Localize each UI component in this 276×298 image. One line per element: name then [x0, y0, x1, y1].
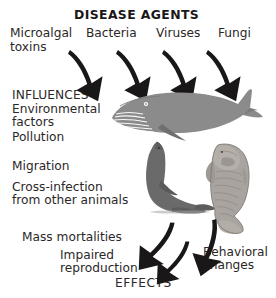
disease-agents-diagram: DISEASE AGENTS Microalgal toxins Bacteri…: [0, 0, 276, 298]
agent-label-viruses: Viruses: [156, 27, 200, 39]
arrow-disease-agent-4: [206, 50, 241, 101]
diagram-footer-effects: EFFECTS: [115, 277, 172, 289]
effect-impaired-reproduction-line2: reproduction: [60, 262, 138, 274]
effect-impaired-reproduction-line1: Impaired: [60, 249, 114, 261]
influence-pollution: Pollution: [12, 131, 64, 143]
arrow-disease-agent-3: [162, 50, 197, 101]
effect-mass-mortalities: Mass mortalities: [22, 231, 122, 243]
effect-behavioral-changes-line2: changes: [203, 259, 254, 271]
influence-migration: Migration: [12, 160, 69, 172]
agent-label-fungi: Fungi: [218, 27, 251, 39]
influence-environmental-factors-line2: factors: [12, 116, 54, 128]
agent-label-microalgal: Microalgal: [10, 27, 72, 39]
influence-cross-infection-line1: Cross-infection: [12, 181, 103, 193]
arrow-disease-agent-2: [116, 50, 151, 101]
whale-illustration: [112, 89, 263, 141]
influences-heading: INFLUENCES: [12, 89, 89, 101]
manatee-illustration: [206, 144, 249, 234]
agent-label-microalgal-line2: toxins: [10, 41, 47, 53]
effect-behavioral-changes-line1: Behavioral: [203, 246, 268, 258]
influence-environmental-factors-line1: Environmental: [12, 103, 101, 115]
agent-label-bacteria: Bacteria: [86, 27, 137, 39]
sea-lion-illustration: [146, 142, 216, 214]
influence-cross-infection-line2: from other animals: [12, 194, 128, 206]
diagram-title: DISEASE AGENTS: [74, 9, 199, 21]
